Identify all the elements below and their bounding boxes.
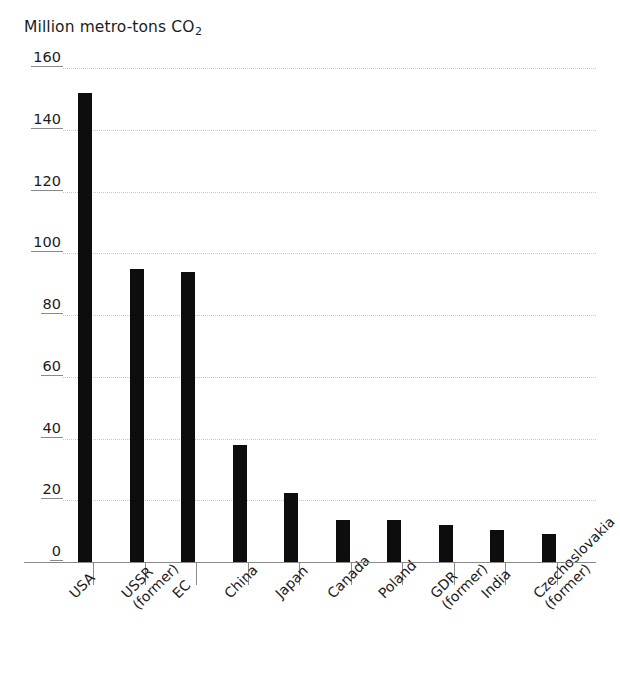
y-tick-value: 160 [31, 49, 63, 67]
y-tick-label-100: 100 [31, 234, 63, 254]
bar-india [490, 530, 504, 562]
y-tick-value: 140 [31, 111, 63, 129]
bar-canada [336, 520, 350, 562]
y-tick-value: 40 [41, 420, 63, 438]
bar-ec [181, 272, 195, 562]
y-tick-label-60: 60 [41, 358, 63, 378]
gridline-160 [63, 68, 596, 69]
bar-china [233, 445, 247, 562]
bar-ussr-former [130, 269, 144, 562]
x-label-line1: Japan [272, 562, 311, 601]
y-tick-label-140: 140 [31, 111, 63, 131]
y-tick-value: 60 [41, 358, 63, 376]
x-label-line1: Poland [375, 557, 419, 601]
bar-poland [387, 520, 401, 562]
bar-japan [284, 493, 298, 562]
y-tick-value: 100 [31, 234, 63, 252]
bar-czechoslovakia-former [542, 534, 556, 562]
x-label-line1: China [221, 562, 261, 602]
x-axis-baseline [24, 562, 596, 563]
x-label-gdr-former: GDR(former) [427, 549, 491, 613]
y-tick-label-0: 0 [50, 543, 63, 563]
gridline-120 [63, 192, 596, 193]
x-label-poland: Poland [375, 557, 419, 601]
x-tick-mark-2 [196, 563, 197, 585]
gridline-140 [63, 130, 596, 131]
y-tick-label-40: 40 [41, 420, 63, 440]
y-tick-label-80: 80 [41, 296, 63, 316]
bar-usa [78, 93, 92, 562]
y-tick-value: 20 [41, 481, 63, 499]
y-tick-label-160: 160 [31, 49, 63, 69]
bar-gdr-former [439, 525, 453, 562]
x-label-china: China [221, 562, 261, 602]
x-label-japan: Japan [272, 562, 311, 601]
y-tick-label-20: 20 [41, 481, 63, 501]
x-label-ussr-former: USSR(former) [118, 549, 182, 613]
x-label-czechoslovakia-former: Czechoslovakia(former) [530, 514, 620, 613]
y-tick-value: 120 [31, 173, 63, 191]
y-tick-value: 80 [41, 296, 63, 314]
y-tick-value: 0 [50, 543, 63, 561]
y-tick-label-120: 120 [31, 173, 63, 193]
gridline-100 [63, 253, 596, 254]
